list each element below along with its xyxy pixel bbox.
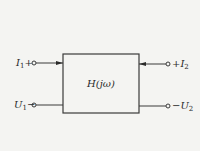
block-transfer-function-label: H(jω) — [63, 54, 139, 113]
input-current-label: I1+ — [16, 58, 33, 70]
output-voltage-label: −U2 — [172, 101, 193, 113]
output-current-arrow-icon — [139, 62, 146, 66]
output-top-terminal-icon — [166, 62, 170, 66]
output-current-label: +I2 — [172, 59, 189, 71]
input-current-arrow-icon — [56, 61, 63, 65]
output-bottom-terminal-icon — [166, 104, 170, 108]
input-voltage-label: U1− — [14, 100, 35, 112]
